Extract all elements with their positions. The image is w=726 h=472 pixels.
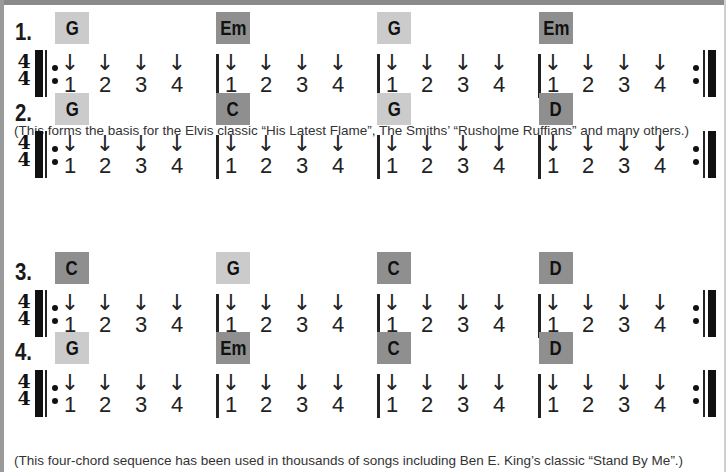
beat: ↓2 — [93, 52, 117, 96]
repeat-start-thick-bar — [35, 131, 43, 178]
beat-number: 2 — [254, 155, 278, 177]
chord-label: C — [227, 97, 239, 121]
chord-box: Em — [539, 12, 573, 44]
beat: ↓4 — [326, 372, 350, 416]
beat: ↓4 — [648, 292, 672, 336]
down-strum-arrow-icon: ↓ — [129, 133, 153, 155]
down-strum-arrow-icon: ↓ — [487, 52, 511, 74]
beat-number: 3 — [612, 74, 636, 96]
beat: ↓1 — [219, 372, 243, 416]
beat-number: 4 — [648, 74, 672, 96]
down-strum-arrow-icon: ↓ — [541, 133, 565, 155]
repeat-dot — [693, 305, 699, 311]
beat: ↓4 — [487, 372, 511, 416]
beat: ↓2 — [415, 133, 439, 177]
down-strum-arrow-icon: ↓ — [165, 133, 189, 155]
progression-number: 4. — [15, 338, 32, 366]
repeat-start-thick-bar — [35, 290, 43, 337]
down-strum-arrow-icon: ↓ — [326, 372, 350, 394]
repeat-end-thin-bar — [703, 131, 705, 178]
repeat-dot — [693, 398, 699, 404]
time-signature-bottom: 4 — [14, 390, 34, 407]
beat: ↓4 — [648, 52, 672, 96]
beat-number: 3 — [451, 74, 475, 96]
chord-box: Em — [216, 12, 250, 44]
beat: ↓2 — [415, 52, 439, 96]
beat: ↓1 — [541, 372, 565, 416]
time-signature: 44 — [14, 293, 34, 327]
beat: ↓2 — [576, 292, 600, 336]
chord-box: G — [377, 12, 411, 44]
chord-label: G — [65, 16, 78, 40]
beat-number: 2 — [415, 314, 439, 336]
beat-number: 4 — [487, 314, 511, 336]
beat-number: 3 — [129, 74, 153, 96]
down-strum-arrow-icon: ↓ — [165, 372, 189, 394]
down-strum-arrow-icon: ↓ — [380, 292, 404, 314]
chord-label: G — [387, 97, 400, 121]
beat-number: 2 — [254, 394, 278, 416]
beat-number: 2 — [576, 394, 600, 416]
beat-number: 3 — [451, 394, 475, 416]
chord-box: C — [55, 252, 89, 284]
beat: ↓1 — [380, 292, 404, 336]
down-strum-arrow-icon: ↓ — [541, 52, 565, 74]
beat: ↓2 — [576, 372, 600, 416]
down-strum-arrow-icon: ↓ — [290, 133, 314, 155]
beat-number: 1 — [380, 394, 404, 416]
down-strum-arrow-icon: ↓ — [326, 52, 350, 74]
down-strum-arrow-icon: ↓ — [612, 292, 636, 314]
chord-box: D — [539, 93, 573, 125]
down-strum-arrow-icon: ↓ — [487, 133, 511, 155]
down-strum-arrow-icon: ↓ — [487, 292, 511, 314]
beat-number: 1 — [58, 155, 82, 177]
beat-number: 3 — [129, 155, 153, 177]
down-strum-arrow-icon: ↓ — [93, 52, 117, 74]
beat-number: 4 — [326, 394, 350, 416]
beat: ↓2 — [576, 133, 600, 177]
repeat-dot — [693, 385, 699, 391]
chord-label: C — [66, 256, 78, 280]
beat-number: 4 — [165, 394, 189, 416]
down-strum-arrow-icon: ↓ — [451, 52, 475, 74]
beat: ↓4 — [648, 133, 672, 177]
beat: ↓4 — [487, 292, 511, 336]
top-border — [0, 0, 726, 5]
down-strum-arrow-icon: ↓ — [58, 52, 82, 74]
beat-number: 3 — [129, 394, 153, 416]
rhythm-staff: 44↓1↓2↓3↓4↓1↓2↓3↓4↓1↓2↓3↓4↓1↓2↓3↓4 — [0, 129, 726, 179]
beat: ↓4 — [487, 52, 511, 96]
beat-number: 2 — [93, 74, 117, 96]
beat-number: 1 — [541, 155, 565, 177]
beat: ↓1 — [541, 292, 565, 336]
beat-number: 4 — [326, 74, 350, 96]
beat: ↓1 — [58, 52, 82, 96]
progression-number: 2. — [15, 99, 32, 127]
down-strum-arrow-icon: ↓ — [290, 292, 314, 314]
beat-number: 2 — [415, 155, 439, 177]
beat-number: 1 — [219, 394, 243, 416]
repeat-start-thin-bar — [45, 50, 47, 97]
down-strum-arrow-icon: ↓ — [415, 133, 439, 155]
beat: ↓3 — [612, 372, 636, 416]
down-strum-arrow-icon: ↓ — [415, 292, 439, 314]
rhythm-staff: 44↓1↓2↓3↓4↓1↓2↓3↓4↓1↓2↓3↓4↓1↓2↓3↓4 — [0, 288, 726, 338]
beat: ↓3 — [290, 292, 314, 336]
repeat-dot — [693, 159, 699, 165]
chord-box: C — [216, 93, 250, 125]
beat: ↓1 — [541, 133, 565, 177]
beat: ↓2 — [254, 52, 278, 96]
beat: ↓3 — [129, 292, 153, 336]
chord-label: D — [550, 336, 562, 360]
chord-box: G — [55, 332, 89, 364]
repeat-end-thick-bar — [708, 290, 716, 337]
beat: ↓3 — [129, 372, 153, 416]
beat: ↓4 — [165, 372, 189, 416]
beat-number: 2 — [576, 74, 600, 96]
down-strum-arrow-icon: ↓ — [93, 133, 117, 155]
beat-number: 1 — [58, 394, 82, 416]
beat: ↓2 — [576, 52, 600, 96]
rhythm-staff: 44↓1↓2↓3↓4↓1↓2↓3↓4↓1↓2↓3↓4↓1↓2↓3↓4 — [0, 48, 726, 98]
beat-number: 1 — [380, 155, 404, 177]
beat: ↓3 — [451, 292, 475, 336]
